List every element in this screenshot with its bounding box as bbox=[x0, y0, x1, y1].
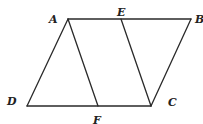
label-a: A bbox=[48, 13, 58, 26]
segment-af bbox=[68, 19, 98, 106]
segment-ec bbox=[121, 19, 151, 106]
segment-bc bbox=[151, 19, 191, 106]
label-b: B bbox=[194, 13, 203, 26]
label-e: E bbox=[116, 6, 126, 19]
geometry-figure: A E B D F C bbox=[0, 0, 203, 124]
segment-ad bbox=[27, 19, 68, 106]
label-c: C bbox=[168, 96, 177, 109]
label-d: D bbox=[6, 95, 17, 108]
label-f: F bbox=[92, 114, 102, 124]
